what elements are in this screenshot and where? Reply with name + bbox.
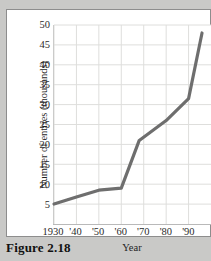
x-axis-tick-label: '80 — [160, 227, 172, 238]
y-axis-tick-label: 5 — [45, 200, 50, 211]
x-axis-tick-label: '90 — [182, 227, 194, 238]
figure-caption: Figure 2.18 — [6, 240, 71, 256]
y-axis-tick-label: 30 — [40, 100, 51, 111]
data-line-series-number-of-entries — [54, 33, 202, 204]
y-axis-tick-label: 40 — [40, 60, 51, 71]
y-axis-tick-label: 20 — [40, 140, 51, 151]
x-axis-tick-label: '50 — [92, 227, 104, 238]
data-line-layer — [54, 25, 211, 224]
figure-container: Number of entries (thousands) 5101520253… — [0, 0, 211, 261]
x-axis-tick-label: '70 — [137, 227, 149, 238]
y-axis-tick-labels: 5101520253035404550 — [25, 25, 50, 225]
figure-panel: Number of entries (thousands) 5101520253… — [6, 9, 211, 237]
y-axis-tick-label: 10 — [40, 180, 51, 191]
x-axis-title: Year — [53, 242, 211, 253]
y-axis-tick-label: 50 — [40, 20, 51, 31]
y-axis-tick-label: 15 — [40, 160, 51, 171]
y-axis-tick-label: 35 — [40, 80, 51, 91]
plot-area — [53, 25, 211, 225]
x-axis-tick-label: 1930 — [43, 227, 64, 238]
x-axis-tick-label: '60 — [115, 227, 127, 238]
y-axis-tick-label: 45 — [40, 40, 51, 51]
x-axis-tick-labels: 1930'40'50'60'70'80'90 — [53, 227, 211, 243]
x-axis-tick-label: '40 — [69, 227, 81, 238]
y-axis-tick-label: 25 — [40, 120, 51, 131]
